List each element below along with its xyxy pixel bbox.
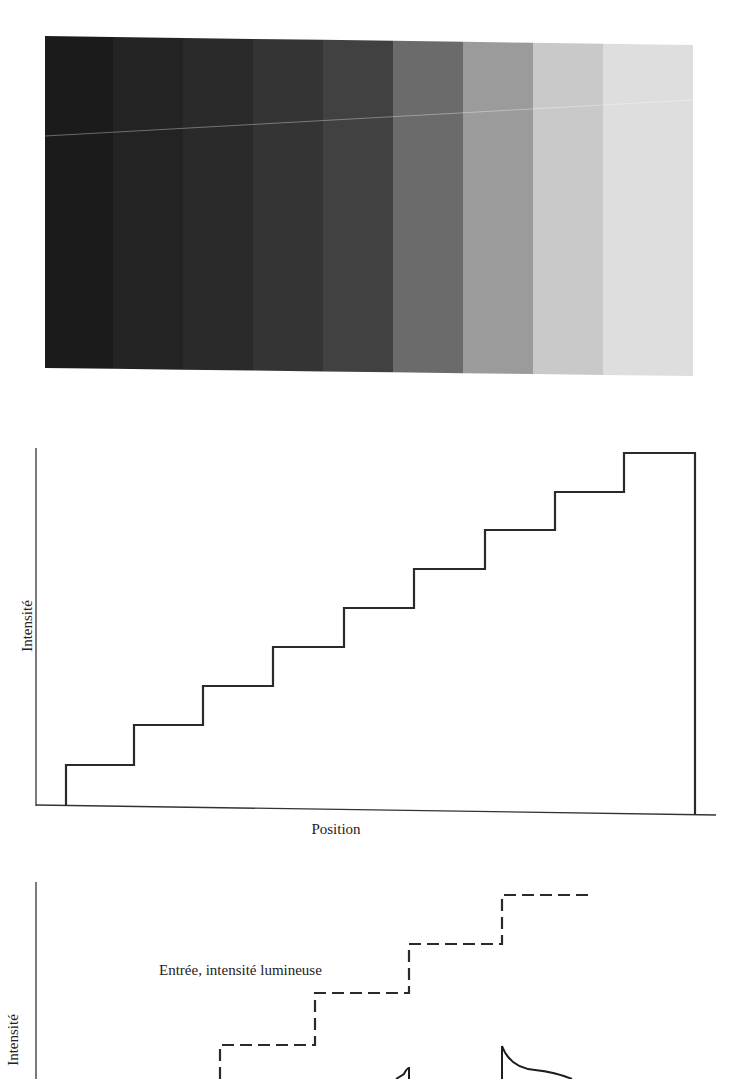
input-intensity-annotation: Entrée, intensité lumineuse [159, 962, 322, 978]
gray-band-3 [183, 38, 253, 371]
perception-chart: Intensité Entrée, intensité lumineuse [5, 882, 592, 1079]
staircase-ylabel: Intensité [19, 600, 35, 652]
gray-band-9 [603, 44, 693, 376]
staircase-line [66, 453, 695, 815]
gray-band-5 [323, 40, 393, 372]
grayscale-strip [45, 36, 693, 376]
gray-band-8 [533, 43, 603, 375]
perceived-response-curve [396, 1046, 572, 1079]
gray-band-6 [393, 41, 463, 373]
gray-band-4 [253, 39, 323, 372]
perception-ylabel: Intensité [5, 1014, 21, 1066]
x-axis [36, 805, 716, 815]
gray-band-2 [113, 37, 183, 370]
staircase-xlabel: Position [311, 821, 361, 837]
figure: Intensité Position Intensité Entrée, int… [0, 0, 748, 1079]
gray-band-7 [463, 42, 533, 374]
gray-band-1 [45, 36, 113, 369]
input-intensity-dashed-line [220, 895, 592, 1079]
staircase-chart: Intensité Position [19, 448, 716, 837]
